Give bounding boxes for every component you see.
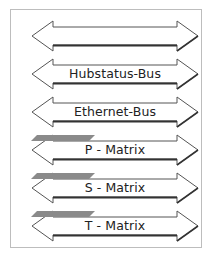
- bus-arrow-1: [31, 20, 199, 52]
- bus-label: Hubstatus-Bus: [31, 58, 199, 90]
- bus-arrow-t-matrix: T - Matrix: [31, 210, 199, 242]
- bus-label: Ethernet-Bus: [31, 96, 199, 128]
- bus-arrow-hubstatus: Hubstatus-Bus: [31, 58, 199, 90]
- diagram-frame: Hubstatus-Bus Ethernet-Bus P - Matrix S …: [10, 9, 202, 248]
- bus-arrow-ethernet: Ethernet-Bus: [31, 96, 199, 128]
- bus-label: [31, 20, 199, 52]
- bus-label: S - Matrix: [31, 172, 199, 204]
- bus-label: P - Matrix: [31, 134, 199, 166]
- bus-label: T - Matrix: [31, 210, 199, 242]
- bus-arrow-p-matrix: P - Matrix: [31, 134, 199, 166]
- bus-arrow-s-matrix: S - Matrix: [31, 172, 199, 204]
